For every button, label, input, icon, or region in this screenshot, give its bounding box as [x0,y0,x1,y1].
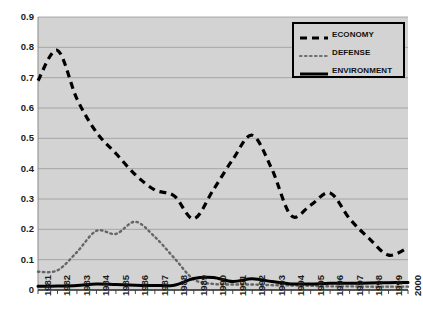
chart-legend: ECONOMY DEFENSE ENVIRONMENT [292,22,405,78]
x-tick-label: 1993 [276,275,287,296]
x-tick-label: 1986 [139,275,150,296]
legend-entry-defense: DEFENSE [299,45,371,59]
x-tick-label: 1999 [393,275,404,296]
legend-entry-environment: ENVIRONMENT [299,63,392,77]
legend-label-environment: ENVIRONMENT [332,66,392,75]
legend-label-defense: DEFENSE [332,48,371,57]
economy-dash-swatch [299,29,329,39]
x-tick-label: 1982 [61,275,72,296]
legend-entry-economy: ECONOMY [299,27,374,41]
x-tick-label: 1994 [295,275,306,296]
x-tick-label: 1988 [178,275,189,296]
x-tick-label: 1998 [373,275,384,296]
x-tick-label: 1995 [315,275,326,296]
defense-dot-swatch [299,47,329,57]
environment-solid-swatch [299,65,329,75]
x-tick-label: 2000 [412,275,423,296]
x-tick-label: 1990 [217,275,228,296]
x-tick-label: 1989 [198,275,209,296]
x-tick-label: 1984 [100,275,111,296]
x-tick-label: 1987 [159,275,170,296]
x-tick-label: 1981 [42,275,53,296]
x-tick-label: 1991 [237,275,248,296]
x-tick-label: 1997 [354,275,365,296]
x-tick-label: 1996 [334,275,345,296]
x-tick-label: 1992 [256,275,267,296]
legend-label-economy: ECONOMY [332,30,374,39]
x-tick-label: 1983 [81,275,92,296]
x-tick-label: 1985 [120,275,131,296]
